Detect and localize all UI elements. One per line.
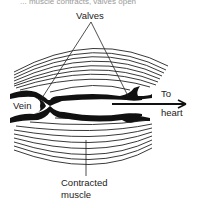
upper-muscle-fibers	[14, 48, 168, 92]
muscle-label: muscle	[61, 189, 91, 200]
valves-label: Valves	[76, 10, 104, 21]
vein-label: Vein	[13, 100, 32, 111]
lower-muscle-fibers	[14, 117, 152, 165]
caption-text: ... muscle contracts, valves open	[20, 0, 136, 6]
to-label: To	[161, 88, 171, 99]
vein-valve-diagram: ... muscle contracts, valves open	[0, 0, 197, 208]
heart-label: heart	[161, 107, 183, 118]
contracted-label: Contracted	[61, 177, 107, 188]
